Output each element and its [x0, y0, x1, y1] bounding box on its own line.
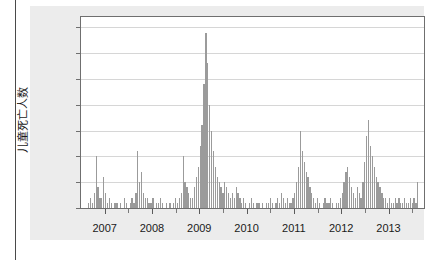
- chart-figure: 儿童死亡人数 05101520253035 200720082009201020…: [0, 0, 444, 260]
- x-axis-tick-mark: [152, 209, 153, 214]
- x-axis-minor-tick-mark: [365, 209, 366, 213]
- x-axis-tick-label: 2009: [176, 222, 222, 234]
- x-axis-minor-tick-mark: [176, 209, 177, 213]
- x-axis-minor-tick-mark: [223, 209, 224, 213]
- x-axis-tick-label: 2007: [82, 222, 128, 234]
- x-axis-tick-label: 2011: [271, 222, 317, 234]
- x-axis: 2007200820092010201120122013: [0, 0, 444, 260]
- x-axis-tick-label: 2008: [129, 222, 175, 234]
- x-axis-tick-label: 2010: [224, 222, 270, 234]
- x-axis-minor-tick-mark: [318, 209, 319, 213]
- x-axis-tick-mark: [105, 209, 106, 214]
- x-axis-tick-mark: [199, 209, 200, 214]
- x-axis-minor-tick-mark: [128, 209, 129, 213]
- x-axis-minor-tick-mark: [270, 209, 271, 213]
- x-axis-tick-label: 2013: [366, 222, 412, 234]
- x-axis-tick-label: 2012: [318, 222, 364, 234]
- x-axis-tick-mark: [294, 209, 295, 214]
- x-axis-tick-mark: [247, 209, 248, 214]
- x-axis-minor-tick-mark: [412, 209, 413, 213]
- x-axis-tick-mark: [389, 209, 390, 214]
- x-axis-tick-mark: [341, 209, 342, 214]
